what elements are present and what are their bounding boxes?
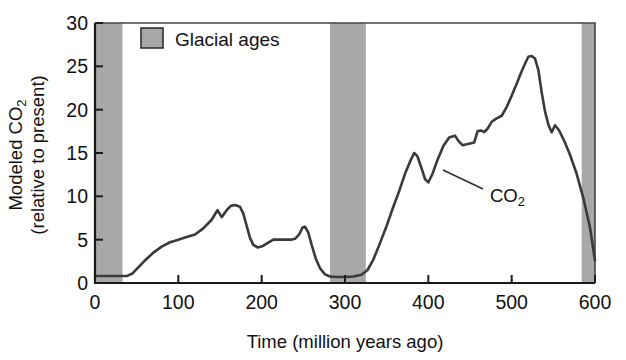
chart-svg: 0 5 10 15 20 25 30 0 100 200 300 400 500… bbox=[0, 0, 626, 360]
co2-annotation-subscript: 2 bbox=[518, 194, 525, 209]
x-tick-label-300: 300 bbox=[329, 291, 362, 313]
y-axis-title-main: Modeled CO bbox=[5, 107, 26, 211]
y-axis-title: Modeled CO2 (relative to present) bbox=[5, 75, 48, 234]
x-tick-label-200: 200 bbox=[245, 291, 278, 313]
x-tick-labels: 0 100 200 300 400 500 600 bbox=[90, 291, 612, 313]
glacial-band-permo-carboniferous bbox=[330, 23, 366, 283]
co2-annotation-text: CO bbox=[490, 185, 518, 206]
y-tick-labels: 0 5 10 15 20 25 30 bbox=[66, 12, 88, 294]
y-tick-label-0: 0 bbox=[77, 272, 88, 294]
y-tick-label-25: 25 bbox=[66, 55, 88, 77]
y-tick-label-10: 10 bbox=[66, 185, 88, 207]
x-tick-label-600: 600 bbox=[579, 291, 612, 313]
y-tick-label-30: 30 bbox=[66, 12, 88, 34]
x-tick-label-0: 0 bbox=[90, 291, 101, 313]
legend-label-glacial-ages: Glacial ages bbox=[175, 29, 280, 50]
y-tick-label-15: 15 bbox=[66, 142, 88, 164]
y-axis-title-line2: (relative to present) bbox=[27, 75, 48, 234]
y-tick-label-5: 5 bbox=[77, 229, 88, 251]
chart-figure: 0 5 10 15 20 25 30 0 100 200 300 400 500… bbox=[0, 0, 626, 360]
x-tick-label-400: 400 bbox=[412, 291, 445, 313]
legend-swatch-glacial-ages bbox=[141, 28, 163, 48]
legend: Glacial ages bbox=[141, 28, 280, 50]
y-axis-title-line1: Modeled CO2 bbox=[5, 99, 29, 210]
x-tick-label-500: 500 bbox=[495, 291, 528, 313]
x-axis-title: Time (million years ago) bbox=[247, 331, 444, 352]
y-tick-label-20: 20 bbox=[66, 99, 88, 121]
x-tick-label-100: 100 bbox=[162, 291, 195, 313]
